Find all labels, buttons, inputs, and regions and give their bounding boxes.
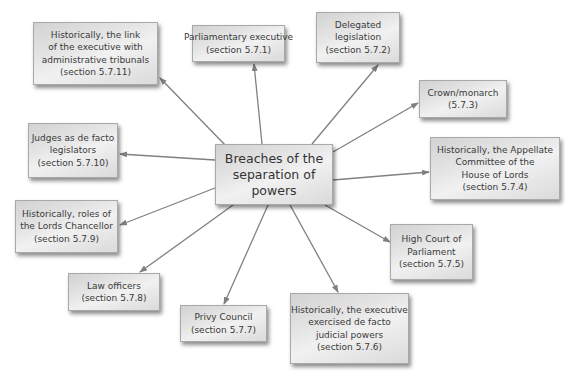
node-line: administrative tribunals bbox=[42, 54, 149, 67]
node-line: Committee of the bbox=[455, 156, 534, 169]
node-line: Historically, the Appellate bbox=[437, 144, 553, 157]
node-line: House of Lords bbox=[462, 169, 529, 182]
center-line-2: separation of bbox=[233, 167, 316, 183]
node-law-officers: Law officers (section 5.7.8) bbox=[68, 273, 160, 311]
node-line: Crown/monarch bbox=[427, 87, 498, 100]
node-line: (section 5.7.9) bbox=[34, 233, 99, 246]
node-high-court-of-parliament: High Court of Parliament (section 5.7.5) bbox=[390, 224, 473, 280]
node-line: Delegated bbox=[335, 19, 382, 32]
node-line: (section 5.7.7) bbox=[191, 324, 256, 337]
node-line: exercised de facto bbox=[308, 316, 391, 329]
arrow-to-lords-chancellor bbox=[120, 188, 215, 225]
node-line: (5.7.3) bbox=[448, 99, 478, 112]
node-judges-legislators: Judges as de facto legislators (section … bbox=[28, 123, 118, 178]
node-line: (section 5.7.1) bbox=[206, 44, 271, 57]
node-line: the Lords Chancellor bbox=[20, 220, 113, 233]
node-line: Judges as de facto bbox=[32, 132, 115, 145]
arrow-to-high-court bbox=[325, 205, 390, 242]
arrow-to-judges-legislators bbox=[120, 154, 215, 160]
node-crown-monarch: Crown/monarch (5.7.3) bbox=[419, 80, 507, 118]
center-line-3: powers bbox=[251, 183, 296, 199]
node-line: legislation bbox=[335, 31, 381, 44]
node-line: Parliamentary executive bbox=[184, 31, 293, 44]
node-line: Historically, the executive bbox=[291, 304, 408, 317]
arrow-to-executive-tribunals bbox=[160, 78, 228, 148]
node-line: judicial powers bbox=[316, 329, 383, 342]
center-line-1: Breaches of the bbox=[225, 151, 323, 167]
node-privy-council: Privy Council (section 5.7.7) bbox=[180, 305, 267, 342]
node-executive-tribunals: Historically, the link of the executive … bbox=[33, 22, 158, 85]
node-line: (section 5.7.8) bbox=[81, 292, 146, 305]
node-line: (section 5.7.2) bbox=[325, 44, 390, 57]
node-line: Historically, roles of bbox=[22, 208, 111, 221]
node-line: Privy Council bbox=[194, 311, 252, 324]
arrow-to-appellate-committee bbox=[333, 172, 429, 180]
node-delegated-legislation: Delegated legislation (section 5.7.2) bbox=[316, 12, 400, 63]
node-line: (section 5.7.6) bbox=[317, 341, 382, 354]
node-line: Law officers bbox=[87, 280, 141, 293]
arrow-to-executive-judicial bbox=[290, 205, 338, 292]
node-line: (section 5.7.5) bbox=[399, 258, 464, 271]
node-lords-chancellor: Historically, roles of the Lords Chancel… bbox=[15, 200, 118, 253]
node-parliamentary-executive: Parliamentary executive (section 5.7.1) bbox=[192, 25, 285, 62]
arrow-to-privy-council bbox=[224, 205, 268, 304]
node-line: High Court of bbox=[402, 233, 462, 246]
node-appellate-committee: Historically, the Appellate Committee of… bbox=[430, 137, 560, 200]
node-line: (section 5.7.10) bbox=[38, 157, 109, 170]
arrow-to-crown-monarch bbox=[333, 103, 418, 152]
node-line: Parliament bbox=[407, 246, 455, 259]
node-executive-judicial-powers: Historically, the executive exercised de… bbox=[290, 293, 409, 364]
node-line: (section 5.7.4) bbox=[462, 181, 527, 194]
node-line: of the executive with bbox=[48, 41, 143, 54]
arrow-to-parliamentary-executive bbox=[254, 64, 262, 144]
node-line: legislators bbox=[50, 144, 96, 157]
center-node-breaches: Breaches of the separation of powers bbox=[215, 144, 333, 205]
node-line: Historically, the link bbox=[51, 29, 140, 42]
node-line: (section 5.7.11) bbox=[60, 66, 131, 79]
